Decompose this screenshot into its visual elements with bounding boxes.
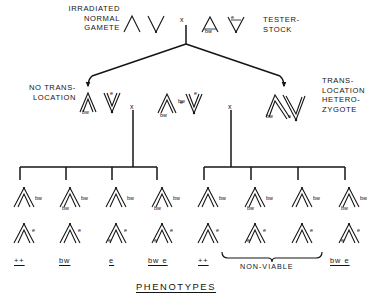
gene-label-f1-right-bw: bw [266,113,273,119]
offspring-6-top-gene-bw-2: bw [247,205,254,211]
genetics-cross-diagram: IRRADIATED NORMAL GAMETE x TESTER- STOCK… [0,0,371,300]
offspring-4-top-gene-bw: bw [173,195,180,201]
offspring-chromosome-4-top [152,187,172,207]
offspring-8-top-gene-bw: bw [360,195,367,201]
arrow-to-no-translocation [88,76,92,86]
parent-branch-right [186,44,280,76]
offspring-chromosome-1-bottom [14,223,34,243]
offspring-4-bottom-gene-e-2: e [154,237,157,243]
offspring-chromosome-1-top [14,187,34,207]
offspring-3-top-gene-bw: bw [127,195,134,201]
phenotype-3: e [109,256,114,265]
phenotype-8: bw e [330,256,350,265]
gene-label-tester-bw: bw [205,28,212,34]
offspring-1-bottom-gene-e: e [32,227,35,233]
non-viable-label: NON-VIABLE [240,262,294,271]
offspring-3-bottom-gene-e-2: e [108,237,111,243]
offspring-4-bottom-gene-e: e [170,227,173,233]
offspring-chromosome-5-bottom [198,223,218,243]
offspring-8-top-gene-bw-2: bw [341,205,348,211]
offspring-8-bottom-gene-e: e [357,227,360,233]
offspring-chromosome-7-bottom [292,223,312,243]
gene-label-f1-mid-e-top: e [194,90,197,96]
offspring-chromosome-2-bottom [60,223,80,243]
offspring-chromosome-7-top [292,187,312,207]
gene-label-f1-right-e: e [288,113,291,119]
offspring-7-top-gene-bw: bw [313,195,320,201]
parent-branch-left [92,44,186,76]
gene-label-tester-e: e [231,14,234,20]
phenotype-5: ++ [198,256,209,265]
offspring-chromosome-3-top [106,187,126,207]
offspring-chromosome-8-top [339,187,359,207]
phenotype-4: bw e [148,256,168,265]
gene-label-f1-mid-bw-below: bw [160,112,167,118]
offspring-5-bottom-gene-e: e [216,227,219,233]
offspring-3-bottom-gene-e: e [124,227,127,233]
offspring-7-bottom-gene-e: e [310,227,313,233]
phenotype-2: bw [59,256,70,265]
offspring-6-bottom-gene-e: e [263,227,266,233]
offspring-1-top-gene-bw: bw [35,195,42,201]
offspring-chromosomes [14,187,359,243]
offspring-2-top-gene-bw-2: bw [62,205,69,211]
non-viable-brace [222,252,322,262]
offspring-2-top-gene-bw: bw [81,195,88,201]
offspring-5-top-gene-bw: bw [219,195,226,201]
arrow-to-translocation-heterozygote [280,76,284,86]
gene-label-f1-mid-e-left: e [180,99,183,105]
offspring-6-top-gene-bw: bw [266,195,273,201]
phenotype-1: ++ [14,256,25,265]
diagram-vectors [0,0,371,300]
offspring-chromosome-5-top [198,187,218,207]
gene-label-f1-left-bw: bw [82,109,89,115]
offspring-6-bottom-gene-e-2: e [247,237,250,243]
offspring-2-bottom-gene-e: e [78,227,81,233]
offspring-chromosome-6-top [245,187,265,207]
offspring-chromosome-2-top [60,187,80,207]
gene-label-f1-left-e: e [110,90,113,96]
offspring-8-bottom-gene-e-2: e [341,237,344,243]
chromosome-irradiated-gamete [124,16,164,33]
page-title: PHENOTYPES [136,281,216,292]
offspring-4-top-gene-bw-2: bw [154,205,161,211]
